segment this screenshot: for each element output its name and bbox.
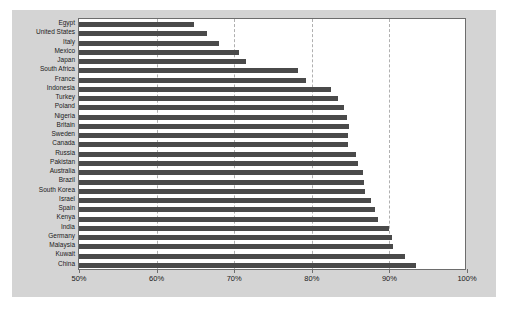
bar-row: Brazil	[79, 177, 465, 186]
category-label: China	[58, 259, 75, 268]
category-label: Germany	[48, 231, 75, 240]
bar-row: Italy	[79, 39, 465, 48]
bar	[79, 198, 371, 203]
bar-row: Japan	[79, 57, 465, 66]
bar-row: United States	[79, 29, 465, 38]
bar-row: Sweden	[79, 131, 465, 140]
bar	[79, 96, 338, 101]
bar-row: Israel	[79, 196, 465, 205]
bar	[79, 161, 358, 166]
bar	[79, 235, 392, 240]
category-label: Turkey	[55, 92, 75, 101]
bar-row: Poland	[79, 103, 465, 112]
bar	[79, 87, 331, 92]
x-tick-label: 70%	[227, 274, 242, 283]
bar	[79, 226, 389, 231]
bar-row: Pakistan	[79, 159, 465, 168]
category-label: South Africa	[40, 64, 75, 73]
bar	[79, 142, 348, 147]
category-label: Brazil	[59, 175, 75, 184]
bar	[79, 170, 363, 175]
bar	[79, 189, 365, 194]
bar-row: Mexico	[79, 48, 465, 57]
category-label: Canada	[52, 138, 75, 147]
tick-mark	[467, 269, 468, 273]
category-label: Indonesia	[47, 83, 75, 92]
bar	[79, 254, 405, 259]
bar-row: China	[79, 261, 465, 270]
x-tick-label: 100%	[457, 274, 476, 283]
category-label: Pakistan	[50, 157, 75, 166]
category-label: Malaysia	[49, 240, 75, 249]
bar	[79, 263, 416, 268]
category-label: Russia	[55, 148, 75, 157]
category-label: Sweden	[52, 129, 76, 138]
category-label: Egypt	[58, 18, 75, 27]
bar-row: Germany	[79, 233, 465, 242]
category-label: Japan	[57, 55, 75, 64]
bar-row: Canada	[79, 140, 465, 149]
bar-series: EgyptUnited StatesItalyMexicoJapanSouth …	[79, 19, 465, 269]
bar	[79, 50, 239, 55]
bar	[79, 59, 246, 64]
category-label: Nigeria	[54, 111, 75, 120]
bar	[79, 78, 306, 83]
bar	[79, 124, 349, 129]
bar	[79, 68, 298, 73]
category-label: Kenya	[57, 212, 75, 221]
bar	[79, 180, 364, 185]
bar	[79, 244, 393, 249]
bar-row: Malaysia	[79, 242, 465, 251]
category-label: Poland	[55, 101, 75, 110]
bar	[79, 152, 356, 157]
bar-row: South Africa	[79, 66, 465, 75]
category-label: Kuwait	[55, 249, 75, 258]
category-label: Britain	[57, 120, 75, 129]
x-tick-label: 50%	[71, 274, 86, 283]
x-tick-label: 60%	[149, 274, 164, 283]
category-label: India	[61, 222, 75, 231]
plot-area: EgyptUnited StatesItalyMexicoJapanSouth …	[78, 18, 466, 270]
category-label: Spain	[58, 203, 75, 212]
bar-row: Russia	[79, 150, 465, 159]
category-label: United States	[36, 27, 75, 36]
bar-row: Spain	[79, 205, 465, 214]
category-label: Israel	[59, 194, 75, 203]
bar-row: Turkey	[79, 94, 465, 103]
bar-row: Kenya	[79, 214, 465, 223]
bar	[79, 133, 348, 138]
category-label: Italy	[63, 37, 75, 46]
bar-row: France	[79, 76, 465, 85]
x-tick-label: 90%	[382, 274, 397, 283]
category-label: France	[55, 74, 75, 83]
bar	[79, 105, 344, 110]
category-label: South Korea	[39, 185, 75, 194]
bar-row: Britain	[79, 122, 465, 131]
bar-row: Nigeria	[79, 113, 465, 122]
category-label: Mexico	[54, 46, 75, 55]
bar	[79, 31, 207, 36]
bar	[79, 217, 378, 222]
bar	[79, 22, 194, 27]
bar	[79, 207, 375, 212]
bar-row: Australia	[79, 168, 465, 177]
chart-figure: EgyptUnited StatesItalyMexicoJapanSouth …	[12, 10, 496, 297]
bar-row: Kuwait	[79, 251, 465, 260]
bar-row: Egypt	[79, 20, 465, 29]
bar	[79, 115, 347, 120]
bar	[79, 41, 219, 46]
bar-row: Indonesia	[79, 85, 465, 94]
category-label: Australia	[50, 166, 75, 175]
bar-row: India	[79, 224, 465, 233]
bar-row: South Korea	[79, 187, 465, 196]
x-tick-label: 80%	[304, 274, 319, 283]
